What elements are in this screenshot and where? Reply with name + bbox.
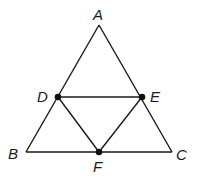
- point-d: [55, 94, 62, 101]
- label-b: B: [8, 145, 18, 162]
- segment-ef: [99, 97, 142, 152]
- point-e: [139, 94, 146, 101]
- label-d: D: [37, 88, 48, 105]
- label-e: E: [150, 88, 161, 105]
- label-a: A: [92, 6, 103, 23]
- segment-df: [58, 97, 99, 152]
- label-c: C: [176, 146, 187, 163]
- label-f: F: [93, 158, 103, 175]
- triangle-diagram: A B C D E F: [0, 0, 199, 179]
- marked-points: [55, 94, 146, 156]
- segment-ac: [99, 25, 172, 152]
- point-f: [96, 149, 103, 156]
